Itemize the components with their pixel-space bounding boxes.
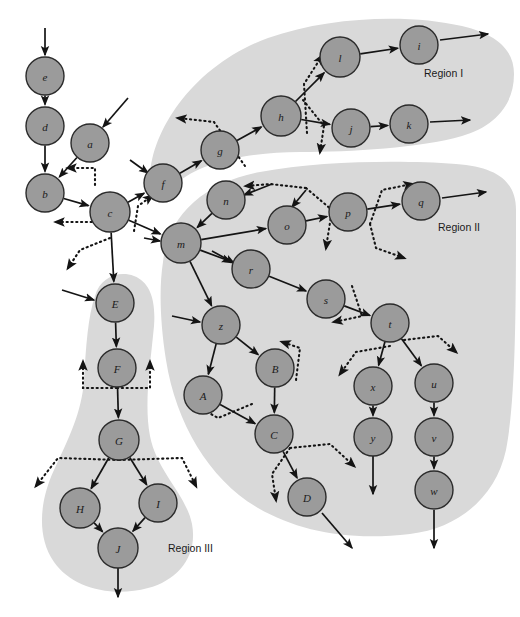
node-C[interactable]: C xyxy=(255,415,293,453)
dotted-edge xyxy=(68,168,95,185)
node-x[interactable]: x xyxy=(354,367,392,405)
node-label-C: C xyxy=(270,429,278,441)
node-J[interactable]: J xyxy=(98,528,138,568)
node-s[interactable]: s xyxy=(307,280,345,318)
node-a[interactable]: a xyxy=(71,124,109,162)
node-c[interactable]: c xyxy=(90,192,130,232)
node-label-E: E xyxy=(111,298,119,310)
edge-F-G xyxy=(118,387,119,417)
node-l[interactable]: l xyxy=(320,37,360,77)
node-label-o: o xyxy=(284,220,290,232)
node-label-z: z xyxy=(218,320,224,332)
diagram-canvas: edabcfghlijknopqmrstzBACDxuyvwEFGHIJ Reg… xyxy=(0,0,520,617)
node-label-b: b xyxy=(42,188,48,200)
region-label-region-2: Region II xyxy=(438,221,480,233)
node-G[interactable]: G xyxy=(99,420,139,460)
node-label-B: B xyxy=(272,363,279,375)
node-B[interactable]: B xyxy=(256,349,294,387)
node-label-d: d xyxy=(42,121,48,133)
node-z[interactable]: z xyxy=(202,306,240,344)
node-y[interactable]: y xyxy=(354,418,392,456)
node-label-r: r xyxy=(249,264,254,276)
dotted-edge xyxy=(68,238,110,268)
node-I[interactable]: I xyxy=(139,484,177,522)
node-u[interactable]: u xyxy=(415,364,453,402)
node-H[interactable]: H xyxy=(60,488,100,528)
node-label-y: y xyxy=(370,432,376,444)
task-graph-diagram: edabcfghlijknopqmrstzBACDxuyvwEFGHIJ Reg… xyxy=(0,0,520,617)
node-label-n: n xyxy=(223,195,229,207)
edge-c-f xyxy=(128,193,144,202)
node-r[interactable]: r xyxy=(232,250,270,288)
external-input-arrow-m xyxy=(144,238,160,241)
dotted-edge xyxy=(56,205,94,222)
node-label-i: i xyxy=(417,40,420,52)
node-label-c: c xyxy=(108,207,113,219)
node-label-A: A xyxy=(199,390,207,402)
node-label-w: w xyxy=(430,485,438,497)
node-i[interactable]: i xyxy=(400,26,438,64)
node-label-q: q xyxy=(418,196,424,208)
node-label-F: F xyxy=(113,363,121,375)
node-f[interactable]: f xyxy=(144,164,182,202)
node-p[interactable]: p xyxy=(329,193,367,231)
edge-E-F xyxy=(116,322,117,346)
node-label-g: g xyxy=(217,145,223,157)
node-label-l: l xyxy=(338,52,341,64)
node-label-u: u xyxy=(431,378,437,390)
node-j[interactable]: j xyxy=(332,109,370,147)
node-label-h: h xyxy=(278,111,284,123)
node-A[interactable]: A xyxy=(184,376,222,414)
node-label-e: e xyxy=(43,71,48,83)
edge-c-E xyxy=(111,232,114,281)
node-label-x: x xyxy=(370,381,376,393)
node-F[interactable]: F xyxy=(98,349,136,387)
node-b[interactable]: b xyxy=(26,174,64,212)
node-d[interactable]: d xyxy=(26,107,64,145)
node-label-m: m xyxy=(177,238,185,250)
node-k[interactable]: k xyxy=(390,105,428,143)
node-w[interactable]: w xyxy=(415,471,453,509)
node-m[interactable]: m xyxy=(161,223,201,263)
node-label-H: H xyxy=(75,503,85,515)
node-D[interactable]: D xyxy=(288,478,326,516)
external-input-arrow-a xyxy=(103,98,128,127)
region-label-region-1: Region I xyxy=(424,67,463,79)
node-label-a: a xyxy=(87,138,93,150)
external-input-arrow-f xyxy=(130,160,148,173)
node-label-G: G xyxy=(115,435,123,447)
node-label-D: D xyxy=(302,492,311,504)
node-label-p: p xyxy=(344,207,351,219)
node-v[interactable]: v xyxy=(415,418,453,456)
node-g[interactable]: g xyxy=(201,131,239,169)
edge-b-c xyxy=(64,198,89,205)
external-input-arrow-E xyxy=(62,290,94,300)
region-label-region-3: Region III xyxy=(168,542,213,554)
node-e[interactable]: e xyxy=(26,57,64,95)
node-n[interactable]: n xyxy=(207,181,245,219)
node-label-s: s xyxy=(324,294,328,306)
node-o[interactable]: o xyxy=(268,206,306,244)
node-q[interactable]: q xyxy=(402,182,440,220)
node-t[interactable]: t xyxy=(371,304,409,342)
node-E[interactable]: E xyxy=(96,284,134,322)
node-h[interactable]: h xyxy=(261,96,301,136)
node-label-v: v xyxy=(432,432,437,444)
edge-j-k xyxy=(370,125,387,126)
